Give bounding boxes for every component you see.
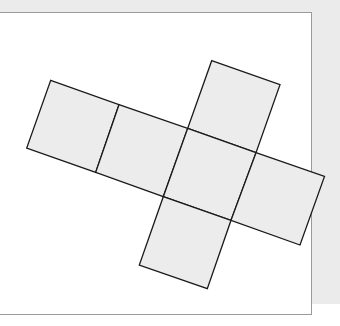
cube-net-diagram xyxy=(0,0,340,326)
cube-net-faces xyxy=(27,61,325,289)
